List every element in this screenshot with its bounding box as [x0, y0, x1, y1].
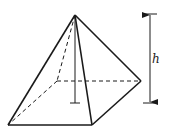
pyramid-diagram: h — [0, 0, 169, 137]
edge-apex-to-front-right — [75, 15, 92, 125]
hidden-edge-apex-to-back-left — [57, 15, 75, 81]
edge-apex-to-right — [75, 15, 141, 81]
edge-apex-to-front-left — [8, 15, 75, 125]
height-label: h — [152, 52, 160, 66]
height-segment — [70, 15, 80, 103]
edge-right-base — [92, 81, 141, 125]
hidden-edge-back-left-to-front-left — [8, 81, 57, 125]
